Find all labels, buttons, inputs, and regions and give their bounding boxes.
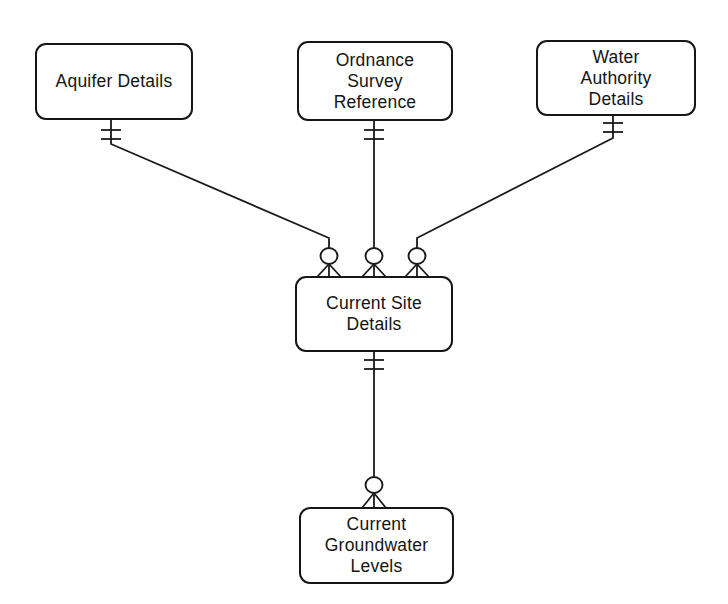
entity-ordnance-survey-reference: Ordnance Survey Reference [297,41,453,121]
er-diagram: Aquifer Details Ordnance Survey Referenc… [0,0,728,604]
entity-label: Current Site Details [313,293,435,335]
entity-label: Current Groundwater Levels [316,514,438,577]
relationship-line [111,120,329,248]
entity-current-site-details: Current Site Details [295,276,453,352]
zero-or-many-circle-icon [366,477,383,493]
relationship-line [417,116,613,248]
crow-foot-icon [362,493,386,508]
zero-or-many-circle-icon [321,248,338,264]
relationship-ordnance-to-site [362,121,386,277]
relationship-water-to-site [405,116,623,277]
entity-label: Water Authority Details [569,47,664,110]
entity-water-authority-details: Water Authority Details [536,40,696,116]
zero-or-many-circle-icon [366,248,383,264]
entity-label: Aquifer Details [56,71,173,92]
entity-label: Ordnance Survey Reference [325,50,425,113]
entity-current-groundwater-levels: Current Groundwater Levels [299,507,454,584]
entity-aquifer-details: Aquifer Details [35,43,193,120]
relationship-aquifer-to-site [101,120,341,277]
zero-or-many-circle-icon [409,248,426,264]
relationship-site-to-groundwater [362,352,386,508]
